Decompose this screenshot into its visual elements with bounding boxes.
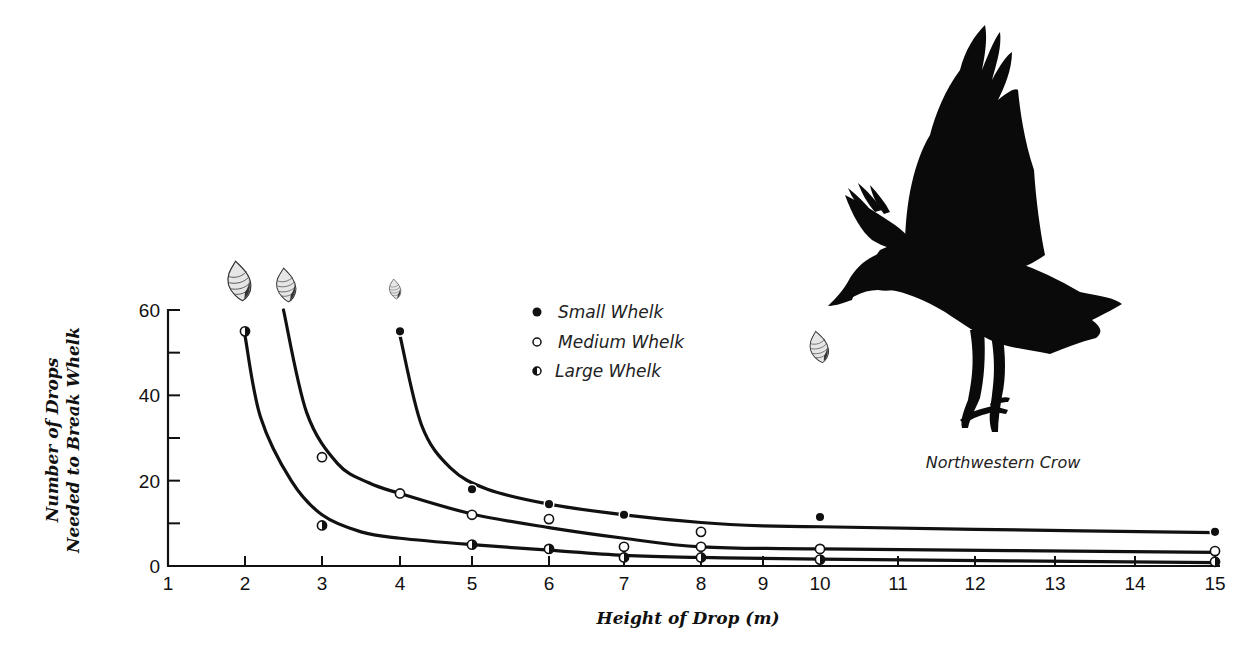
x-tick-label: 9 <box>758 573 769 594</box>
x-tick-label: 7 <box>619 573 630 594</box>
y-axis-title-line2: Needed to Break Whelk <box>63 327 83 554</box>
x-tick-label: 12 <box>964 573 985 594</box>
x-tick-label: 13 <box>1044 573 1065 594</box>
data-point-medium <box>317 453 326 462</box>
y-axis-title: Number of Drops Needed to Break Whelk <box>42 327 83 554</box>
y-tick-label: 60 <box>139 300 160 321</box>
whelk-shell-falling-icon <box>807 330 831 365</box>
data-point-small <box>619 510 629 520</box>
crow-silhouette-icon <box>828 25 1122 432</box>
y-tick-label: 40 <box>139 385 160 406</box>
y-tick-label: 20 <box>139 471 160 492</box>
crow-caption: Northwestern Crow <box>926 453 1081 472</box>
legend: Small Whelk Medium Whelk Large Whelk <box>533 302 686 381</box>
legend-item-medium: Medium Whelk <box>533 332 685 352</box>
x-tick-label: 15 <box>1204 573 1225 594</box>
whelk-shell-medium-icon <box>274 267 297 303</box>
x-tick-label: 1 <box>163 573 174 594</box>
data-point-large <box>240 327 249 336</box>
data-point-medium <box>696 542 705 551</box>
data-point-small <box>395 327 405 337</box>
data-point-large <box>1210 557 1219 566</box>
open-circle-icon <box>533 338 541 346</box>
x-tick-label: 14 <box>1124 573 1146 594</box>
x-tick-label: 11 <box>888 573 908 594</box>
data-point-medium <box>815 544 824 553</box>
legend-label-medium: Medium Whelk <box>558 332 685 352</box>
whelk-shell-large-icon <box>225 259 254 302</box>
legend-label-large: Large Whelk <box>555 361 662 381</box>
data-point-large <box>467 540 476 549</box>
data-point-medium <box>544 514 553 523</box>
y-ticks: 0204060 <box>139 300 180 577</box>
y-axis-title-line1: Number of Drops <box>42 357 62 523</box>
x-tick-label: 10 <box>809 573 830 594</box>
data-point-medium <box>395 489 404 498</box>
data-point-small <box>467 484 477 494</box>
data-point-medium <box>619 542 628 551</box>
data-point-large <box>544 544 553 553</box>
whelk-drop-chart: 0204060 123456789101112131415 Height of … <box>0 0 1258 657</box>
legend-item-large: Large Whelk <box>533 361 662 381</box>
curve-small-whelk <box>400 336 1215 533</box>
legend-item-small: Small Whelk <box>533 302 665 322</box>
legend-label-small: Small Whelk <box>558 302 664 322</box>
x-tick-label: 4 <box>395 573 406 594</box>
data-point-small <box>1210 527 1220 537</box>
x-tick-label: 3 <box>317 573 328 594</box>
data-point-small <box>544 499 554 509</box>
y-tick-label: 0 <box>149 556 160 577</box>
data-point-small <box>815 512 825 522</box>
curve-large-whelk <box>245 336 1215 563</box>
data-point-large <box>619 553 628 562</box>
whelk-shell-small-icon <box>388 278 402 299</box>
x-tick-label: 8 <box>696 573 707 594</box>
data-point-large <box>317 521 326 530</box>
x-axis-title: Height of Drop (m) <box>596 608 780 628</box>
fitted-curves <box>245 310 1215 563</box>
x-tick-label: 5 <box>467 573 478 594</box>
data-point-medium <box>696 527 705 536</box>
x-tick-label: 6 <box>544 573 555 594</box>
x-tick-label: 2 <box>240 573 251 594</box>
data-point-large <box>815 555 824 564</box>
data-point-large <box>696 553 705 562</box>
data-point-medium <box>1210 546 1219 555</box>
data-point-medium <box>467 510 476 519</box>
filled-circle-icon <box>533 308 542 317</box>
